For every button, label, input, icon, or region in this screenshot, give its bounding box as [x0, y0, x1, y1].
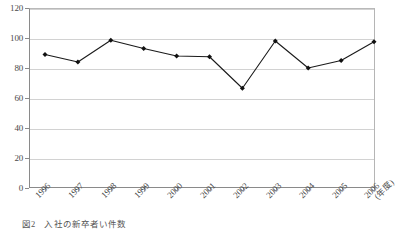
gridline-80 [30, 69, 374, 70]
y-tickmark-20 [25, 158, 29, 159]
y-tick-label-120: 120 [0, 4, 23, 13]
y-tickmark-40 [25, 128, 29, 129]
y-tick-label-20: 20 [0, 154, 23, 163]
y-tick-label-60: 60 [0, 94, 23, 103]
gridline-20 [30, 159, 374, 160]
y-tick-label-0: 0 [0, 184, 23, 193]
y-tickmark-120 [25, 8, 29, 9]
y-tickmark-0 [25, 188, 29, 189]
caption-number: 図2 [22, 219, 35, 229]
gridline-60 [30, 99, 374, 100]
gridline-100 [30, 39, 374, 40]
gridline-120 [30, 9, 374, 10]
y-tick-label-40: 40 [0, 124, 23, 133]
y-tickmark-100 [25, 38, 29, 39]
y-tick-label-80: 80 [0, 64, 23, 73]
gridline-40 [30, 129, 374, 130]
figure-caption: 図2入社の新卒者い件数 [22, 219, 126, 230]
y-tickmark-60 [25, 98, 29, 99]
y-tick-label-100: 100 [0, 34, 23, 43]
plot-area [29, 8, 375, 188]
x-axis-unit-label: (年度) [372, 177, 396, 201]
caption-text: 入社の新卒者い件数 [44, 219, 126, 229]
y-tickmark-80 [25, 68, 29, 69]
